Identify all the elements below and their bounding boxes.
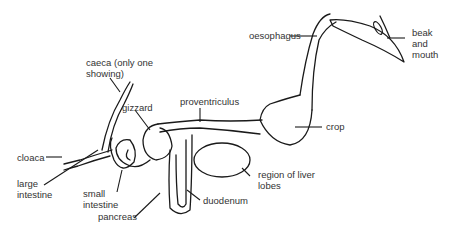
oesophagus <box>300 14 336 110</box>
leader-caeca <box>110 78 120 92</box>
proventriculus <box>158 120 262 134</box>
label-beak-and-mouth: beak and mouth <box>412 27 438 60</box>
label-region-of-liver-lobes: region of liver lobes <box>258 169 315 191</box>
small-intestine <box>110 138 150 168</box>
label-large-intestine: large intestine <box>17 178 52 200</box>
label-crop: crop <box>326 121 344 132</box>
gizzard <box>143 124 172 160</box>
leader-gizzard <box>135 110 150 130</box>
bird-digestive-system-diagram: oesophagus beak and mouth caeca (only on… <box>0 0 455 233</box>
caeca <box>102 82 133 152</box>
label-proventriculus: proventriculus <box>180 96 239 107</box>
label-pancreas: pancreas <box>98 211 137 222</box>
leader-pancreas <box>134 193 160 218</box>
label-duodenum: duodenum <box>203 195 248 206</box>
beak <box>330 20 404 62</box>
label-gizzard: gizzard <box>122 102 153 113</box>
label-cloaca: cloaca <box>17 152 44 163</box>
label-small-intestine: small intestine <box>83 188 118 210</box>
liver-lobes-region <box>194 143 250 177</box>
leader-duodenum <box>187 190 200 200</box>
crop <box>260 95 312 145</box>
label-oesophagus: oesophagus <box>249 30 301 41</box>
label-caeca: caeca (only one showing) <box>86 57 153 79</box>
